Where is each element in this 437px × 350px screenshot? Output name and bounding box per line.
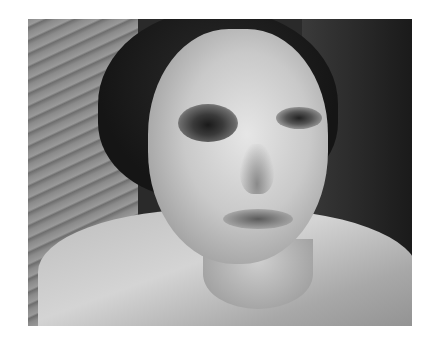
face [148,29,328,264]
nose [240,144,274,194]
eye [276,107,322,129]
bruised-eye [178,104,238,142]
photograph [28,19,412,326]
mouth [223,209,293,229]
